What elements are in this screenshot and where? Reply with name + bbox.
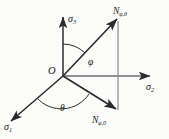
axis-label-sigma-3: σ3 xyxy=(68,14,76,24)
angle-arc-phi xyxy=(63,44,85,53)
axis-label-sigma-1: σ1 xyxy=(4,122,12,132)
vector-label-N-phi-theta: Nφ,θ xyxy=(113,7,127,17)
axis-label-sigma-2: σ2 xyxy=(146,82,154,92)
vector-line-N-phi-zero xyxy=(63,76,116,109)
stress-axis-figure: O σ3 σ2 σ1 Nφ,θ Nφ,0 φ θ xyxy=(0,0,169,139)
origin-label: O xyxy=(48,66,56,77)
angle-label-phi: φ xyxy=(88,58,93,68)
figure-canvas xyxy=(0,0,169,139)
angle-label-theta: θ xyxy=(60,104,65,114)
vector-label-N-phi-zero: Nφ,0 xyxy=(92,116,106,126)
